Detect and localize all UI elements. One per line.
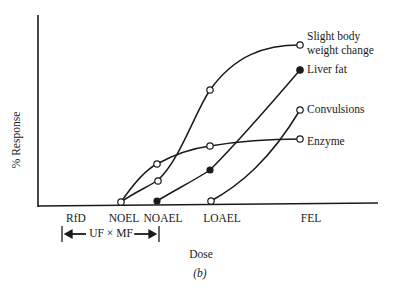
series-label-liver-fat: Liver fat <box>307 63 347 76</box>
x-tick-rfd: RfD <box>66 212 86 225</box>
series-label-convulsions: Convulsions <box>307 103 365 116</box>
x-tick-noael: NOAEL <box>144 212 183 225</box>
curve-liver-fat <box>157 70 300 201</box>
open-marker-enzyme-fel <box>297 136 303 142</box>
open-marker-weight-fel <box>297 42 303 48</box>
series-label-enzyme: Enzyme <box>307 135 345 148</box>
figure-caption: (b) <box>193 267 206 279</box>
filled-marker-liver-fel <box>297 67 303 73</box>
curve-slight-body-weight-change <box>121 45 300 202</box>
open-marker-weight-noael <box>155 178 161 184</box>
filled-marker-liver-loael <box>207 167 213 173</box>
open-marker-enzyme-loael <box>207 143 213 149</box>
filled-marker-liver-noael <box>154 198 160 204</box>
uf-mf-label: UF × MF <box>88 226 134 240</box>
y-axis-label: % Response <box>10 112 22 169</box>
open-marker-convulsions-loael <box>208 198 214 204</box>
uf-mf-range: UF × MF <box>63 226 159 242</box>
open-marker-weight-loael <box>207 87 213 93</box>
x-tick-noel: NOEL <box>109 212 140 225</box>
series-label-weight-line1: Slight body <box>307 30 360 43</box>
markers <box>118 42 303 205</box>
open-marker-convulsions-fel <box>297 107 303 113</box>
open-marker-enzyme-noael <box>154 161 160 167</box>
x-axis <box>38 203 378 206</box>
open-marker-noel <box>118 199 124 205</box>
series-label-weight-line2: weight change <box>307 44 374 57</box>
x-tick-fel: FEL <box>301 212 321 225</box>
x-tick-loael: LOAEL <box>203 212 241 225</box>
x-axis-label: Dose <box>189 248 213 260</box>
